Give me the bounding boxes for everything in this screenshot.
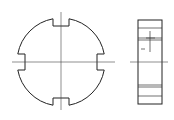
- technical-drawing: [0, 0, 174, 120]
- side-view: [130, 20, 168, 104]
- front-view: [12, 12, 115, 110]
